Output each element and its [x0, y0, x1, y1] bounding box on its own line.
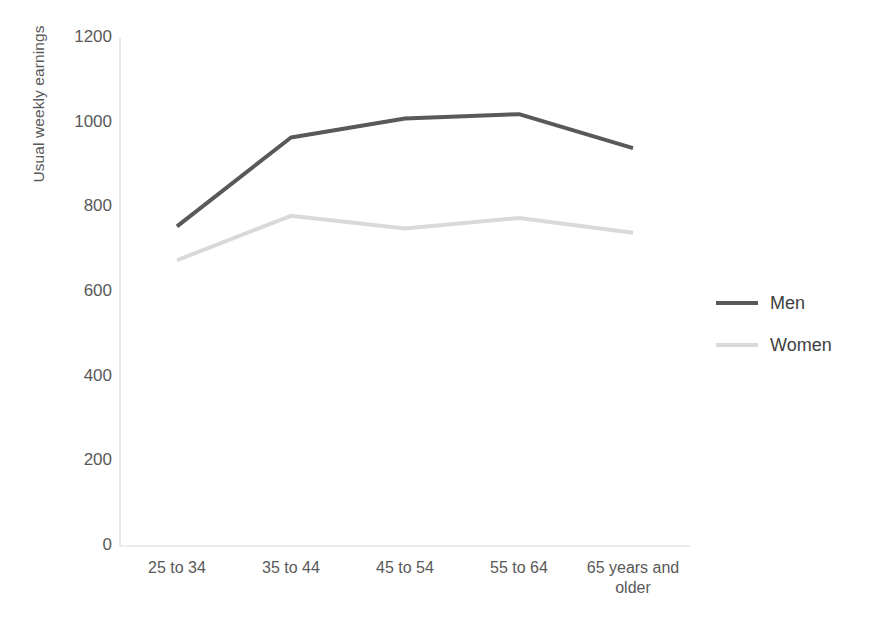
legend-item-women[interactable]: Women	[716, 324, 866, 366]
legend-swatch-men	[716, 301, 758, 305]
series-line-men	[177, 114, 633, 226]
line-chart: Usual weekly earnings 020040060080010001…	[0, 0, 872, 626]
legend: Men Women	[716, 282, 866, 366]
legend-item-men[interactable]: Men	[716, 282, 866, 324]
legend-swatch-women	[716, 343, 758, 347]
series-line-women	[177, 216, 633, 260]
legend-label-men: Men	[770, 293, 805, 314]
legend-label-women: Women	[770, 335, 832, 356]
